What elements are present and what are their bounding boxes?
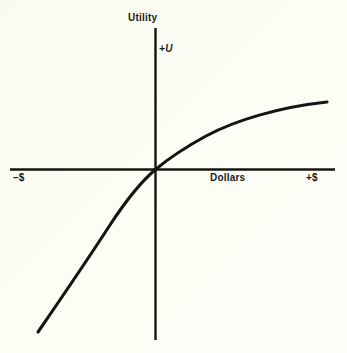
utility-curve-figure: Utility +U –$ Dollars +$ (0, 0, 347, 353)
x-axis-label: Dollars (210, 173, 245, 183)
x-axis-positive-label: +$ (306, 173, 318, 183)
y-axis-positive-label: +U (159, 44, 173, 54)
x-axis-negative-label: –$ (13, 173, 25, 183)
plot-canvas (0, 0, 347, 353)
page-title: Utility (128, 13, 157, 23)
utility-curve-path (38, 102, 327, 332)
